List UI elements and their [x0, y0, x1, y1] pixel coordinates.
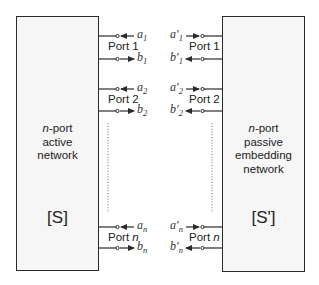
wave-a1: a1 [137, 27, 147, 43]
left-port-n-label: Port n [108, 231, 139, 243]
wave-an-prime: a′n [170, 218, 183, 234]
right-port-1-label: Port 1 [189, 40, 220, 52]
wave-bn: bn [137, 239, 147, 255]
wave-bn-prime: b′n [170, 239, 183, 255]
wave-a2: a2 [137, 80, 147, 96]
right-port-2-label: Port 2 [189, 93, 220, 105]
wave-a1-prime: a′1 [170, 27, 183, 43]
wave-a2-prime: a′2 [170, 80, 183, 96]
wave-b2: b2 [137, 102, 147, 118]
port-wiring [0, 0, 319, 285]
left-port-1-label: Port 1 [108, 40, 139, 52]
wave-an: an [137, 218, 147, 234]
right-port-n-label: Port n [189, 231, 220, 243]
wave-b1-prime: b′1 [170, 50, 183, 66]
left-port-2-label: Port 2 [108, 93, 139, 105]
wave-b1: b1 [137, 50, 147, 66]
wave-b2-prime: b′2 [170, 102, 183, 118]
